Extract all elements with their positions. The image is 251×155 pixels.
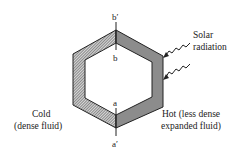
label-hot-1: Hot (less dense [162, 109, 220, 120]
label-solar-2: radiation [193, 42, 227, 52]
cold-side-wall [73, 30, 116, 128]
label-a: a [113, 98, 117, 108]
label-solar-1: Solar [193, 30, 214, 40]
solar-ray-2 [163, 64, 190, 80]
hot-side-wall [116, 30, 163, 128]
label-a-prime: a′ [112, 139, 118, 149]
label-cold-1: Cold [32, 109, 51, 119]
label-hot-2: expanded fluid) [161, 121, 221, 132]
label-b-prime: b′ [112, 12, 119, 22]
natural-circulation-diagram: b′ b a a′ Solar radiation Cold (dense fl… [0, 0, 251, 155]
label-cold-2: (dense fluid) [14, 121, 62, 132]
label-b: b [113, 53, 118, 63]
solar-ray-1 [163, 43, 190, 58]
arrowhead-icon [163, 74, 169, 80]
